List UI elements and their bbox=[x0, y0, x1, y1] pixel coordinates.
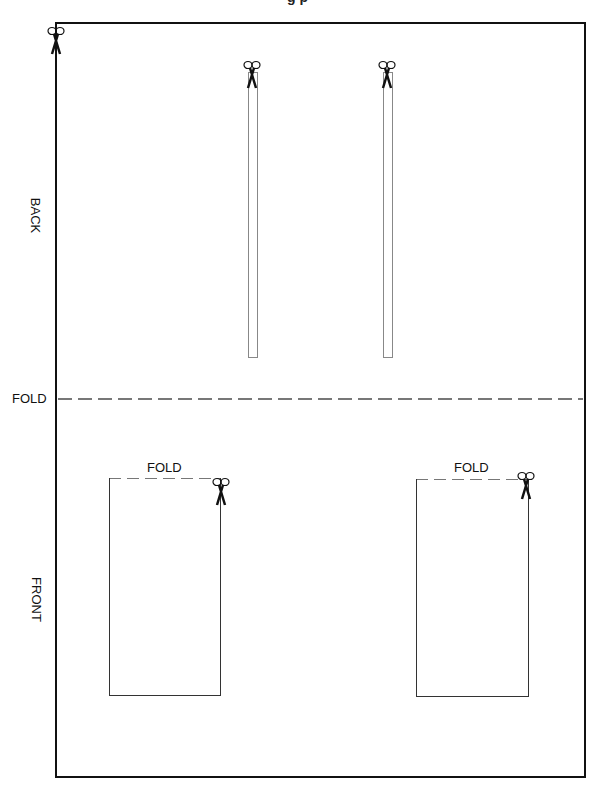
page-title-cut-off: g p bbox=[0, 0, 595, 5]
scissors-icon bbox=[243, 60, 261, 90]
pocket-right-cut-box bbox=[416, 479, 529, 697]
pocket-left-cut-box bbox=[109, 478, 221, 696]
back-label: BACK bbox=[28, 198, 43, 233]
scissors-icon bbox=[517, 471, 535, 501]
scissors-icon bbox=[47, 26, 65, 56]
main-fold-label: FOLD bbox=[12, 391, 47, 406]
pocket-right-fold-label: FOLD bbox=[454, 460, 489, 475]
strip-right bbox=[383, 72, 393, 358]
strip-left bbox=[248, 72, 258, 358]
pocket-left-fold-label: FOLD bbox=[147, 460, 182, 475]
scissors-icon bbox=[378, 60, 396, 90]
front-label: FRONT bbox=[29, 577, 44, 622]
main-fold-line bbox=[58, 398, 583, 400]
scissors-icon bbox=[212, 477, 230, 507]
